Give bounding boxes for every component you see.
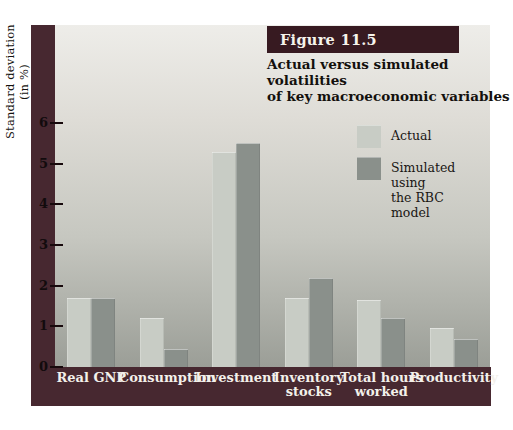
figure-label-box: Figure 11.5 (267, 26, 459, 53)
y-tick-label-4: 4 (30, 196, 48, 212)
bar-simulated-consumption (164, 349, 188, 367)
bar-actual-inventory-stocks (285, 298, 309, 367)
bar-actual-total-hours-worked (357, 300, 381, 367)
y-tick-label-2: 2 (30, 278, 48, 294)
legend-item-simulated: Simulated using the RBC model (357, 157, 455, 220)
y-tick-label-1: 1 (30, 318, 48, 334)
legend-item-actual: Actual (357, 125, 432, 148)
y-tick-mark-4 (50, 203, 63, 205)
y-axis-title: Standard deviation (in %) (3, 16, 31, 148)
figure-title: Actual versus simulated volatilities of … (267, 56, 513, 104)
y-tick-label-5: 5 (30, 156, 48, 172)
y-tick-mark-0 (50, 366, 63, 368)
bar-actual-investment (212, 152, 236, 367)
y-tick-mark-3 (50, 244, 63, 246)
figure-scan: Standard deviation (in %) Figure 11.5 Ac… (0, 0, 513, 430)
legend-swatch-simulated (357, 157, 381, 180)
bar-simulated-inventory-stocks (309, 278, 333, 367)
y-tick-mark-6 (50, 122, 63, 124)
bar-simulated-investment (236, 143, 260, 367)
y-tick-mark-1 (50, 325, 63, 327)
y-axis-band (31, 25, 55, 406)
bar-actual-productivity (430, 328, 454, 367)
y-tick-mark-5 (50, 163, 63, 165)
bar-simulated-productivity (454, 339, 478, 368)
y-tick-label-0: 0 (30, 359, 48, 375)
x-label-productivity: Productivity (409, 371, 499, 385)
bar-actual-real-gnp (67, 298, 91, 367)
bar-simulated-real-gnp (91, 298, 115, 367)
y-tick-mark-2 (50, 285, 63, 287)
figure-label: Figure 11.5 (280, 31, 377, 48)
legend-label-simulated: Simulated using the RBC model (391, 157, 455, 220)
y-tick-label-6: 6 (30, 115, 48, 131)
bar-simulated-total-hours-worked (381, 318, 405, 367)
y-tick-label-3: 3 (30, 237, 48, 253)
bar-actual-consumption (140, 318, 164, 367)
legend-label-actual: Actual (391, 125, 432, 148)
legend-swatch-actual (357, 125, 381, 148)
